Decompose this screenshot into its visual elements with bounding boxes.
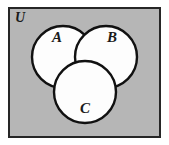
venn-diagram-figure: U A B C (0, 0, 169, 145)
set-label-b: B (106, 29, 117, 45)
venn-diagram-canvas: U A B C (0, 0, 169, 145)
set-label-c: C (80, 100, 91, 116)
set-label-a: A (51, 29, 62, 45)
universe-label: U (15, 10, 26, 25)
